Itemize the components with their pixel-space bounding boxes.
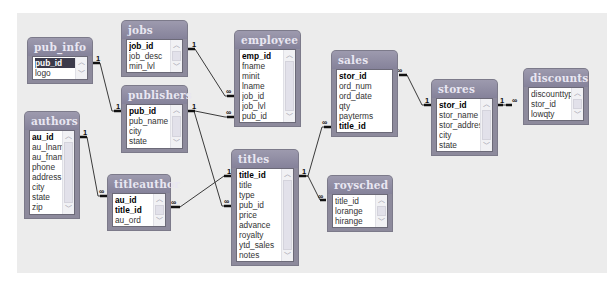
field-item[interactable]: title_id <box>339 121 392 131</box>
scroll-down-icon[interactable]: ﹀ <box>284 112 295 122</box>
scroll-up-icon[interactable]: ︿ <box>282 169 293 179</box>
table-title[interactable]: stores <box>432 80 497 98</box>
card-many-marker: ∞ <box>322 119 327 127</box>
scroll-up-icon[interactable]: ︿ <box>171 40 182 50</box>
scroll-down-icon[interactable]: ﹀ <box>282 251 293 261</box>
card-one-marker: 1 <box>192 41 196 49</box>
card-one-marker: 1 <box>83 129 87 137</box>
scroll-up-icon[interactable]: ︿ <box>63 131 74 141</box>
scrollbar[interactable]: ︿﹀ <box>62 131 74 214</box>
table-jobs[interactable]: jobs job_id job_desc min_lvl ︿﹀ <box>122 21 187 76</box>
scroll-thumb[interactable] <box>285 61 294 111</box>
scrollbar[interactable]: ︿﹀ <box>480 99 492 151</box>
table-sales[interactable]: sales stor_id ord_num ord_date qty payte… <box>332 51 397 136</box>
scroll-down-icon[interactable]: ﹀ <box>171 62 182 72</box>
scroll-up-icon[interactable]: ︿ <box>76 57 87 67</box>
scroll-up-icon[interactable]: ︿ <box>171 105 182 115</box>
scrollbar[interactable]: ︿﹀ <box>170 40 182 72</box>
table-title[interactable]: titles <box>232 150 298 168</box>
table-discounts[interactable]: discounts discounttype stor_id lowqty ︿﹀ <box>524 69 588 124</box>
table-titleauthor[interactable]: titleauthor au_id title_id au_ord ︿﹀ <box>108 175 170 230</box>
table-title[interactable]: jobs <box>122 21 187 39</box>
scroll-thumb[interactable] <box>573 99 582 109</box>
table-title[interactable]: publishers <box>122 86 187 104</box>
card-many-marker: ∞ <box>397 67 402 75</box>
card-many-marker: ∞ <box>226 109 231 117</box>
table-title[interactable]: pub_info <box>28 38 92 56</box>
field-item[interactable]: stor_id <box>339 71 392 81</box>
scroll-thumb[interactable] <box>155 205 164 215</box>
table-authors[interactable]: authors au_id au_lname au_fname phone ad… <box>25 112 79 218</box>
scroll-thumb[interactable] <box>172 51 181 61</box>
scrollbar[interactable]: ︿﹀ <box>170 105 182 148</box>
scroll-down-icon[interactable]: ﹀ <box>376 217 387 227</box>
card-many-marker: ∞ <box>512 97 517 105</box>
scroll-down-icon[interactable]: ﹀ <box>76 69 87 79</box>
scrollbar[interactable]: ︿﹀ <box>75 57 87 79</box>
scroll-thumb[interactable] <box>172 116 181 137</box>
table-title[interactable]: titleauthor <box>108 175 170 193</box>
scroll-up-icon[interactable]: ︿ <box>376 195 387 205</box>
table-employee[interactable]: employee emp_id fname minit lname job_id… <box>235 31 300 126</box>
card-one-marker: 1 <box>192 103 196 111</box>
card-one-marker: 1 <box>96 55 100 63</box>
scrollbar[interactable]: ︿﹀ <box>283 50 295 122</box>
table-title[interactable]: authors <box>25 112 79 130</box>
card-many-marker: ∞ <box>171 199 176 207</box>
field-item[interactable]: ord_num <box>339 81 392 91</box>
scroll-thumb[interactable] <box>64 142 73 203</box>
card-one-marker: 1 <box>116 103 120 111</box>
scroll-thumb[interactable] <box>377 206 386 216</box>
table-title[interactable]: sales <box>332 51 397 69</box>
table-title[interactable]: employee <box>235 31 300 49</box>
scroll-up-icon[interactable]: ︿ <box>284 50 295 60</box>
card-one-marker: 1 <box>500 97 504 105</box>
card-one-marker: 1 <box>302 168 306 176</box>
card-one-marker: 1 <box>425 97 429 105</box>
scroll-up-icon[interactable]: ︿ <box>154 194 165 204</box>
table-title[interactable]: roysched <box>328 176 392 194</box>
scroll-down-icon[interactable]: ﹀ <box>572 110 583 120</box>
field-item[interactable]: ord_date <box>339 91 392 101</box>
table-title[interactable]: discounts <box>524 69 588 87</box>
scroll-down-icon[interactable]: ﹀ <box>171 138 182 148</box>
scroll-up-icon[interactable]: ︿ <box>481 99 492 109</box>
card-many-marker: ∞ <box>99 188 104 196</box>
scrollbar[interactable]: ︿﹀ <box>571 88 583 120</box>
table-titles[interactable]: titles title_id title type pub_id price … <box>232 150 298 265</box>
scrollbar[interactable]: ︿﹀ <box>281 169 293 261</box>
scrollbar[interactable]: ︿﹀ <box>153 194 165 226</box>
card-many-marker: ∞ <box>226 88 231 96</box>
scroll-down-icon[interactable]: ﹀ <box>63 204 74 214</box>
table-pub-info[interactable]: pub_info pub_id logo ︿﹀ <box>28 38 92 83</box>
scroll-down-icon[interactable]: ﹀ <box>481 141 492 151</box>
scroll-thumb[interactable] <box>482 110 491 140</box>
card-many-marker: ∞ <box>318 193 323 201</box>
scrollbar[interactable]: ︿﹀ <box>375 195 387 227</box>
table-publishers[interactable]: publishers pub_id pub_name city state ︿﹀ <box>122 86 187 152</box>
table-stores[interactable]: stores stor_id stor_name stor_address ci… <box>432 80 497 155</box>
scroll-thumb[interactable] <box>283 180 292 250</box>
scroll-up-icon[interactable]: ︿ <box>572 88 583 98</box>
scroll-down-icon[interactable]: ﹀ <box>154 216 165 226</box>
field-item[interactable]: payterms <box>339 111 392 121</box>
card-one-marker: 1 <box>227 168 231 176</box>
field-item[interactable]: qty <box>339 101 392 111</box>
table-roysched[interactable]: roysched title_id lorange hirange ︿﹀ <box>328 176 392 231</box>
card-many-marker: ∞ <box>224 198 229 206</box>
